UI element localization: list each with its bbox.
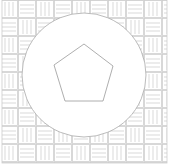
diagram-canvas xyxy=(0,0,171,165)
diagram-svg xyxy=(0,0,171,165)
